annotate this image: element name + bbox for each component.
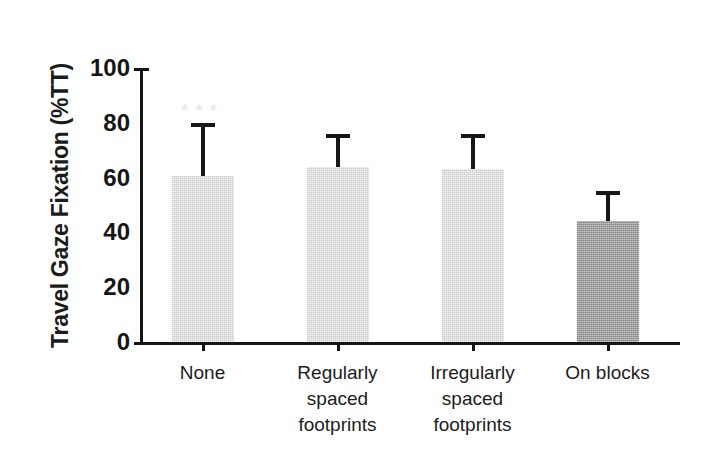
error-bar-stem [606,191,610,221]
x-axis-category-label-line: footprints [263,412,413,438]
error-bar-stem [471,134,475,170]
y-axis-tick-label: 20 [103,273,130,301]
x-axis-line [134,342,680,345]
y-axis-tick-label: 0 [117,328,130,356]
y-axis-line [140,68,143,342]
error-bar-cap [596,191,620,195]
bar [172,176,234,342]
x-axis-category-label-line: Regularly [263,360,413,386]
x-axis-category-label-line: None [128,360,278,386]
y-axis-tick-label: 60 [103,164,130,192]
x-axis-category-label-line: spaced [263,386,413,412]
x-axis-category-label: None [128,360,278,386]
x-axis-category-label-line: On blocks [533,360,683,386]
error-bar-stem [336,134,340,167]
plot-area: 020406080100 *** NoneRegularlyspacedfoot… [140,68,680,342]
significance-marker: *** [181,101,224,120]
error-bar-stem [201,123,205,176]
x-axis-category-label-line: footprints [398,412,548,438]
bar [577,221,639,342]
x-axis-category-label: On blocks [533,360,683,386]
error-bar-cap [191,123,215,127]
x-axis-category-label-line: spaced [398,386,548,412]
bar [307,167,369,342]
error-bar-cap [326,134,350,138]
x-axis-category-label-line: Irregularly [398,360,548,386]
y-axis-top-cap [134,68,149,71]
error-bar-cap [461,134,485,138]
y-axis-tick-label: 80 [103,109,130,137]
x-axis-category-label: Irregularlyspacedfootprints [398,360,548,439]
x-axis-category-label: Regularlyspacedfootprints [263,360,413,439]
bar-chart-figure: Travel Gaze Fixation (%TT) 020406080100 … [0,0,709,466]
bar [442,169,504,342]
y-axis-tick-label: 40 [103,218,130,246]
y-axis-title: Travel Gaze Fixation (%TT) [47,51,74,361]
y-axis-tick-label: 100 [90,54,130,82]
